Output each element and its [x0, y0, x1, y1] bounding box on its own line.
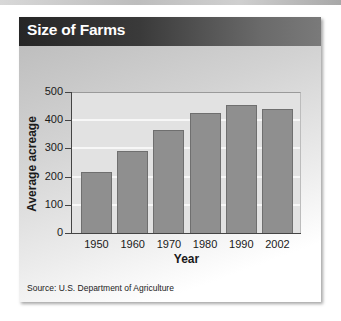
- x-axis-label: Year: [72, 252, 301, 266]
- bar-2002: [262, 109, 293, 233]
- chart-title: Size of Farms: [27, 21, 125, 39]
- x-tick-label: 1970: [151, 238, 187, 250]
- y-tick-label: 500: [29, 85, 63, 97]
- x-axis-line: [71, 233, 301, 234]
- y-tick: [65, 92, 71, 93]
- y-tick: [65, 148, 71, 149]
- y-tick-label: 100: [29, 198, 63, 210]
- y-tick: [65, 205, 71, 206]
- y-tick-label: 300: [29, 141, 63, 153]
- y-tick: [65, 177, 71, 178]
- x-tick-label: 1980: [187, 238, 223, 250]
- source-note: Source: U.S. Department of Agriculture: [27, 283, 174, 293]
- bar-1970: [153, 130, 184, 233]
- y-tick-label: 200: [29, 170, 63, 182]
- chart-header: Size of Farms: [19, 17, 321, 46]
- background-strip: [0, 0, 341, 5]
- y-tick: [65, 120, 71, 121]
- bar-1980: [190, 113, 221, 233]
- y-axis-line: [71, 92, 72, 234]
- x-tick-label: 1950: [79, 238, 115, 250]
- y-tick-label: 400: [29, 113, 63, 125]
- x-tick-label: 1990: [223, 238, 259, 250]
- y-tick-label: 0: [29, 226, 63, 238]
- x-tick-label: 2002: [260, 238, 296, 250]
- bar-1990: [226, 105, 257, 233]
- chart-card: Size of Farms Average acreage Year Sourc…: [19, 17, 321, 302]
- bar-1950: [81, 172, 112, 233]
- bar-1960: [117, 151, 148, 233]
- y-tick: [65, 233, 71, 234]
- x-tick-label: 1960: [115, 238, 151, 250]
